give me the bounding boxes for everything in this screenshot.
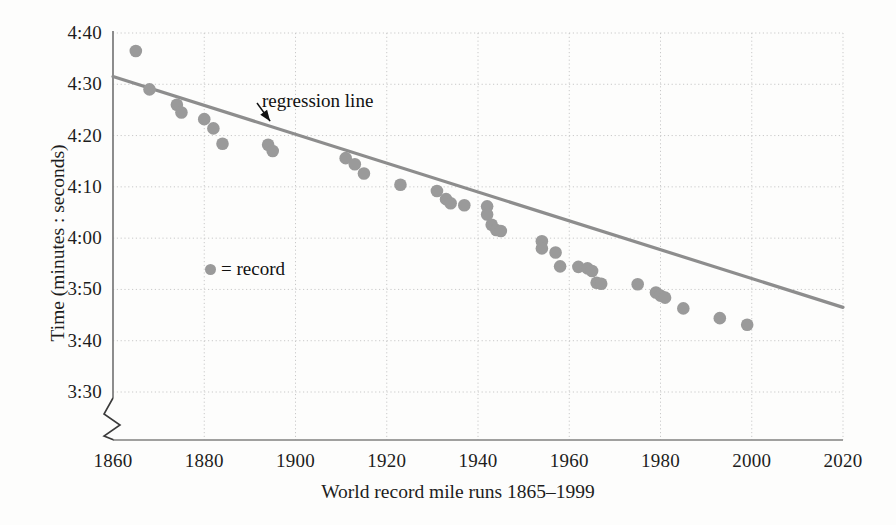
x-axis-tick-label: 1960 — [550, 450, 589, 472]
x-axis-tick-label: 1940 — [459, 450, 498, 472]
data-point — [677, 302, 690, 315]
legend-label: = record — [221, 258, 285, 280]
y-axis-tick-label: 4:40 — [30, 22, 102, 44]
y-axis-tick-label: 4:30 — [30, 73, 102, 95]
data-point — [554, 260, 567, 273]
data-point — [358, 167, 371, 180]
data-point — [143, 83, 156, 96]
data-point — [130, 45, 143, 58]
regression-line-annotation: regression line — [262, 90, 373, 112]
data-point — [349, 158, 362, 171]
data-points — [130, 45, 754, 331]
x-axis-tick-label: 2000 — [732, 450, 771, 472]
y-axis-title: Time (minutes : seconds) — [47, 93, 69, 393]
x-axis-tick-label: 1900 — [276, 450, 315, 472]
data-point — [659, 291, 672, 304]
data-point — [741, 319, 754, 332]
data-point — [216, 137, 229, 150]
x-axis-title: World record mile runs 1865–1999 — [228, 481, 688, 503]
legend-marker-icon — [205, 264, 216, 275]
data-point — [495, 225, 508, 238]
x-axis-tick-label: 1880 — [185, 450, 224, 472]
data-point — [595, 277, 608, 290]
data-point — [586, 265, 599, 278]
data-point — [536, 242, 549, 255]
x-axis-tick-label: 1980 — [641, 450, 680, 472]
data-point — [394, 179, 407, 192]
data-point — [444, 197, 457, 210]
legend: = record — [205, 258, 285, 280]
axis-lines — [104, 31, 843, 440]
data-point — [631, 278, 644, 291]
data-point — [458, 199, 471, 212]
data-point — [207, 122, 220, 135]
chart-container: 3:303:403:504:004:104:204:304:40 1860188… — [0, 0, 896, 525]
data-point — [198, 113, 211, 126]
data-point — [549, 246, 562, 259]
x-axis-tick-label: 1860 — [94, 450, 133, 472]
data-point — [266, 145, 279, 158]
x-axis-tick-label: 1920 — [367, 450, 406, 472]
x-axis-tick-label: 2020 — [824, 450, 863, 472]
chart-plot-svg — [0, 0, 896, 525]
data-point — [175, 106, 188, 119]
data-point — [714, 312, 727, 325]
